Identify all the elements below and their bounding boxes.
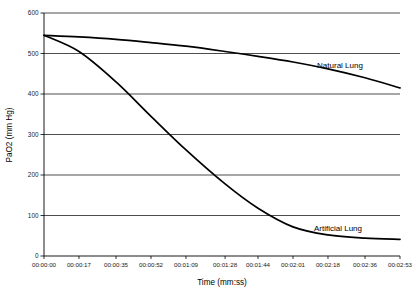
x-tick-label-3: 00:00:52 xyxy=(139,261,164,268)
y-tick-label-600: 600 xyxy=(28,9,39,16)
x-tick-label-10: 00:02:53 xyxy=(388,261,413,268)
x-tick-label-8: 00:02:18 xyxy=(316,261,341,268)
y-axis-title: PaO2 (mm Hg) xyxy=(5,107,14,162)
y-tick-label-0: 0 xyxy=(35,252,39,259)
chart-container: 0100200300400500600 00:00:0000:00:1700:0… xyxy=(0,0,416,291)
pao2-vs-time-line-chart: 0100200300400500600 00:00:0000:00:1700:0… xyxy=(0,0,416,291)
x-tick-label-9: 00:02:36 xyxy=(353,261,378,268)
y-tick-label-300: 300 xyxy=(28,131,39,138)
x-tick-label-7: 00:02:01 xyxy=(281,261,306,268)
y-tick-label-200: 200 xyxy=(28,171,39,178)
x-tick-label-1: 00:00:17 xyxy=(67,261,92,268)
y-tick-label-400: 400 xyxy=(28,90,39,97)
series-annotation-artificial-lung: Artificial Lung xyxy=(314,224,362,233)
x-tick-label-4: 00:01:09 xyxy=(174,261,199,268)
y-tick-label-500: 500 xyxy=(28,50,39,57)
x-tick-label-6: 00:01:44 xyxy=(246,261,271,268)
x-tick-label-5: 00:01:28 xyxy=(213,261,238,268)
x-axis-title: Time (mm:ss) xyxy=(197,278,247,287)
series-annotation-natural-lung: Natural Lung xyxy=(317,61,363,70)
x-tick-label-2: 00:00:35 xyxy=(104,261,129,268)
x-tick-label-0: 00:00:00 xyxy=(32,261,57,268)
y-tick-label-100: 100 xyxy=(28,212,39,219)
